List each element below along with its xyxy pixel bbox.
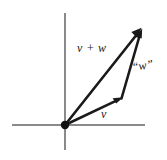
- figure-canvas: [0, 0, 167, 160]
- vector-v: [65, 97, 123, 125]
- vector-label-w: “w”: [131, 58, 154, 73]
- origin-dot: [61, 121, 69, 129]
- vector-label-v: v: [101, 108, 106, 120]
- vector-addition-figure: v + w “w” v: [0, 0, 167, 160]
- vector-label-v-plus-w: v + w: [77, 42, 106, 54]
- vector-v-shaft: [65, 100, 118, 125]
